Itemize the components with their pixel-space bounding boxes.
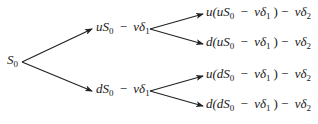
operator: −	[114, 19, 134, 34]
edge-up-down	[150, 29, 203, 44]
sub: 1	[266, 103, 271, 113]
term: vδ	[295, 66, 307, 81]
sub: 0	[109, 26, 114, 36]
node-up: uS0 − vδ1	[96, 20, 150, 38]
term: vδ	[254, 4, 266, 19]
term: dS	[96, 81, 109, 96]
term: d(uS	[206, 34, 230, 49]
sub: 1	[266, 11, 271, 21]
operator: ) −	[271, 66, 295, 81]
node-down-up: u(dS0 − vδ1) − vδ2	[206, 67, 311, 85]
term: uS	[96, 19, 109, 34]
sub: 1	[145, 88, 150, 98]
node-up-down: d(uS0 − vδ1) − vδ2	[206, 35, 311, 53]
sub: 2	[307, 41, 312, 51]
term: vδ	[254, 66, 266, 81]
operator: ) −	[271, 4, 295, 19]
edge-down-down	[150, 91, 203, 106]
sub: 2	[307, 103, 312, 113]
operator: −	[234, 96, 254, 111]
sub: 1	[266, 41, 271, 51]
node-root: S0	[7, 53, 18, 71]
term: u(uS	[206, 4, 230, 19]
node-down: dS0 − vδ1	[96, 82, 150, 100]
node-up-up: u(uS0 − vδ1) − vδ2	[206, 5, 311, 23]
term: vδ	[295, 4, 307, 19]
node-down-down: d(dS0 − vδ1) − vδ2	[206, 97, 311, 115]
edge-root-down	[22, 62, 92, 91]
term: vδ	[133, 81, 145, 96]
sub: 0	[109, 88, 114, 98]
sub: 1	[145, 26, 150, 36]
term: vδ	[254, 96, 266, 111]
sub: 2	[307, 73, 312, 83]
edge-down-up	[150, 76, 203, 91]
operator: −	[234, 66, 254, 81]
term: vδ	[254, 34, 266, 49]
operator: ) −	[271, 96, 295, 111]
term: vδ	[133, 19, 145, 34]
operator: −	[114, 81, 134, 96]
operator: −	[234, 34, 254, 49]
term: d(dS	[206, 96, 230, 111]
sub: 2	[307, 11, 312, 21]
term: u(dS	[206, 66, 230, 81]
root-sub: 0	[14, 59, 19, 69]
term: vδ	[295, 96, 307, 111]
term: vδ	[295, 34, 307, 49]
sub: 1	[266, 73, 271, 83]
edge-up-up	[150, 14, 203, 29]
edge-root-up	[22, 29, 92, 62]
operator: ) −	[271, 34, 295, 49]
operator: −	[234, 4, 254, 19]
